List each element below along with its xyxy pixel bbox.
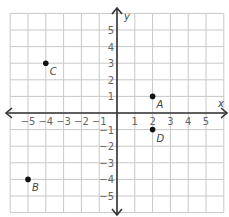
y-axis-label: y xyxy=(123,11,131,22)
y-tick-label: 1 xyxy=(108,91,114,102)
y-tick-label: 5 xyxy=(108,25,114,36)
x-tick-label: 2 xyxy=(149,116,155,127)
point-label: A xyxy=(156,99,164,110)
point-dot xyxy=(150,94,156,100)
y-tick-label: 3 xyxy=(108,58,114,69)
point-label: D xyxy=(157,133,165,144)
x-tick-label: 4 xyxy=(185,116,191,127)
y-tick-label: −5 xyxy=(99,191,114,202)
x-tick-label: −5 xyxy=(21,116,36,127)
x-tick-label: 5 xyxy=(203,116,209,127)
coordinate-plane: xy −5−4−3−2−112345−5−4−3−2−112345 ABCD xyxy=(0,0,229,217)
point-dot xyxy=(150,127,156,133)
x-tick-label: −2 xyxy=(74,116,89,127)
x-tick-label: 1 xyxy=(132,116,138,127)
point-label: C xyxy=(50,66,57,77)
y-tick-label: −3 xyxy=(99,158,114,169)
y-tick-label: 4 xyxy=(108,42,114,53)
point-label: B xyxy=(32,182,39,193)
x-tick-label: 3 xyxy=(167,116,173,127)
axes: xy xyxy=(6,8,227,215)
y-tick-label: 2 xyxy=(108,75,114,86)
point-dot xyxy=(25,177,31,183)
y-tick-label: −2 xyxy=(99,141,114,152)
x-tick-label: −3 xyxy=(56,116,71,127)
y-tick-label: −1 xyxy=(99,125,114,136)
point-dot xyxy=(43,60,49,66)
y-tick-label: −4 xyxy=(99,174,114,185)
x-tick-label: −4 xyxy=(38,116,53,127)
x-axis-label: x xyxy=(217,98,224,109)
